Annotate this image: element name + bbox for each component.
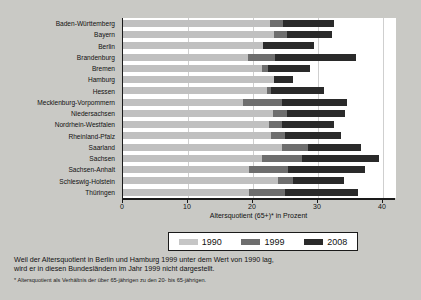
bar-segment-1990 — [123, 31, 274, 38]
bar-segment-2008 — [274, 76, 294, 83]
bar-segment-2008 — [285, 189, 358, 196]
bar-segment-1990 — [123, 155, 262, 162]
category-label: Mecklenburg-Vorpommern — [37, 97, 115, 108]
bar-segment-1990 — [123, 54, 248, 61]
bar-segment-1990 — [123, 42, 263, 49]
x-tick-label: 30 — [313, 203, 321, 210]
stacked-bar[interactable] — [123, 20, 334, 27]
bar-segment-2008 — [285, 132, 341, 139]
category-label: Niedersachsen — [71, 108, 115, 119]
bar-segment-2008 — [287, 110, 344, 117]
category-label: Berlin — [98, 41, 115, 52]
bar-row[interactable] — [123, 164, 396, 175]
category-label: Bremen — [92, 63, 115, 74]
bar-row[interactable] — [123, 119, 396, 130]
stacked-bar[interactable] — [123, 144, 361, 151]
bar-row[interactable] — [123, 97, 396, 108]
category-label: Baden-Württemberg — [56, 18, 115, 29]
bar-segment-2008 — [287, 31, 332, 38]
x-tick-label: 40 — [378, 203, 386, 210]
legend-label-1990: 1990 — [202, 237, 222, 247]
bar-segment-2008 — [268, 65, 310, 72]
note-line-2: wird er in diesen Bundesländern im Jahr … — [14, 264, 414, 273]
bar-row[interactable] — [123, 142, 396, 153]
stacked-bar[interactable] — [123, 42, 314, 49]
bar-segment-1990 — [123, 132, 271, 139]
bar-segment-1990 — [123, 121, 269, 128]
category-label: Hamburg — [88, 74, 115, 85]
bar-segment-2008 — [275, 54, 356, 61]
category-label: Schleswig-Holstein — [59, 176, 115, 187]
bar-row[interactable] — [123, 18, 396, 29]
bar-segment-2008 — [283, 20, 334, 27]
category-label: Sachsen-Anhalt — [68, 164, 115, 175]
bar-row[interactable] — [123, 41, 396, 52]
bar-row[interactable] — [123, 108, 396, 119]
stacked-bar[interactable] — [123, 65, 310, 72]
bar-row[interactable] — [123, 176, 396, 187]
stacked-bar[interactable] — [123, 132, 341, 139]
category-axis-labels: Baden-WürttembergBayernBerlinBrandenburg… — [0, 18, 119, 198]
bar-segment-1999 — [278, 177, 292, 184]
stacked-bar[interactable] — [123, 121, 334, 128]
legend-item-2008: 2008 — [304, 237, 347, 247]
bar-row[interactable] — [123, 74, 396, 85]
bar-row[interactable] — [123, 131, 396, 142]
x-axis-line — [122, 198, 395, 200]
legend-label-1999: 1999 — [264, 237, 284, 247]
x-tick-label: 10 — [183, 203, 191, 210]
bar-segment-1999 — [271, 132, 285, 139]
category-label: Sachsen — [89, 153, 115, 164]
bar-segment-1999 — [269, 121, 282, 128]
legend-item-1990: 1990 — [179, 237, 222, 247]
bar-row[interactable] — [123, 29, 396, 40]
x-axis-title: Altersquotient (65+)* in Prozent — [122, 212, 395, 219]
stacked-bar[interactable] — [123, 189, 358, 196]
note-line-1: Weil der Altersquotient in Berlin und Ha… — [14, 255, 414, 264]
bar-row[interactable] — [123, 86, 396, 97]
category-label: Nordrhein-Westfalen — [55, 119, 115, 130]
bar-segment-1990 — [123, 177, 278, 184]
bar-segment-2008 — [302, 155, 379, 162]
stacked-bar[interactable] — [123, 155, 379, 162]
bar-row[interactable] — [123, 153, 396, 164]
legend-swatch-1999 — [241, 239, 260, 245]
bar-segment-1990 — [123, 99, 243, 106]
bar-segment-1990 — [123, 144, 282, 151]
stacked-bar[interactable] — [123, 166, 365, 173]
bar-segment-2008 — [288, 166, 365, 173]
stacked-bar[interactable] — [123, 87, 324, 94]
category-label: Rheinland-Pfalz — [68, 131, 115, 142]
chart-notes: Weil der Altersquotient in Berlin und Ha… — [14, 255, 414, 285]
stacked-bar[interactable] — [123, 76, 293, 83]
stacked-bar[interactable] — [123, 99, 347, 106]
bar-segment-1999 — [249, 166, 288, 173]
bar-segment-1999 — [282, 144, 307, 151]
bar-segment-1990 — [123, 87, 267, 94]
bar-segment-1999 — [262, 155, 302, 162]
bar-segment-2008 — [293, 177, 344, 184]
bar-segment-1990 — [123, 20, 270, 27]
bar-segment-1999 — [273, 110, 288, 117]
bar-row[interactable] — [123, 187, 396, 198]
plot-area — [122, 18, 396, 198]
stacked-bar[interactable] — [123, 54, 356, 61]
bar-segment-1990 — [123, 65, 262, 72]
legend-swatch-2008 — [304, 239, 323, 245]
stacked-bar[interactable] — [123, 110, 345, 117]
bar-segment-1999 — [274, 31, 287, 38]
bar-segment-1990 — [123, 110, 273, 117]
bar-row[interactable] — [123, 52, 396, 63]
category-label: Hessen — [93, 86, 115, 97]
bar-rows — [123, 18, 396, 198]
stacked-bar[interactable] — [123, 31, 332, 38]
stacked-bar[interactable] — [123, 177, 344, 184]
legend-item-1999: 1999 — [241, 237, 284, 247]
bar-segment-2008 — [282, 99, 348, 106]
x-tick-label: 0 — [120, 203, 124, 210]
bar-segment-2008 — [263, 42, 314, 49]
chart-figure: Baden-WürttembergBayernBerlinBrandenburg… — [0, 0, 421, 300]
category-label: Bayern — [94, 29, 115, 40]
bar-row[interactable] — [123, 63, 396, 74]
bar-segment-2008 — [282, 121, 334, 128]
